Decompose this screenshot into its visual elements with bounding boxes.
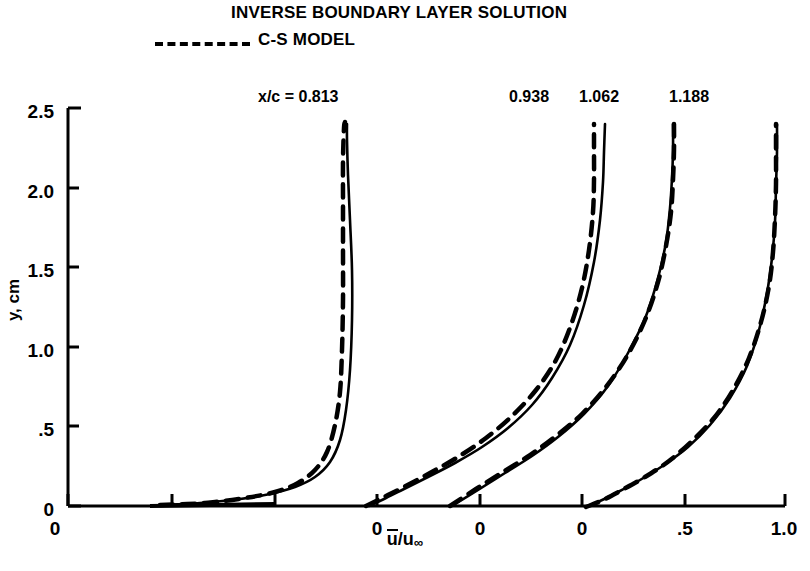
axes-group [68,108,785,506]
curve-station-2-c-s-model [450,124,674,506]
x-tick-label-3: 0 [557,518,607,540]
y-tick-label-2: 1.5 [0,260,54,282]
plot-svg [0,0,810,571]
curve-station-2-inverse-solution [452,124,673,506]
curve-station-0-c-s-model [160,122,345,505]
y-tick-label-1: 2.0 [0,181,54,203]
curve-label-1: 0.938 [509,88,549,106]
curve-station-1-inverse-solution [369,124,605,506]
curve-station-3-c-s-model [586,124,776,507]
y-tick-label-3: 1.0 [0,340,54,362]
curve-label-0: x/c = 0.813 [258,88,339,106]
x-tick-label-4: .5 [660,518,710,540]
curve-label-3: 1.188 [669,88,709,106]
curve-label-2: 1.062 [579,88,619,106]
curve-station-0-inverse-solution [160,124,352,505]
y-tick-label-4: .5 [0,419,54,441]
figure-root: INVERSE BOUNDARY LAYER SOLUTION C-S MODE… [0,0,810,571]
x-tick-label-2: 0 [455,518,505,540]
curve-station-0-baseline-run [150,504,275,506]
x-tick-label-1: 0 [352,518,402,540]
curves-group [150,122,777,507]
x-tick-label-5: 1.0 [759,518,809,540]
x-tick-label-0: 0 [30,518,80,540]
y-tick-label-0: 2.5 [0,101,54,123]
